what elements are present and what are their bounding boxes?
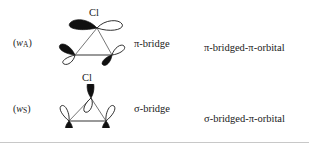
row-1-paren-close: ): [28, 37, 31, 48]
row-1-description-label: π-bridged-π-orbital: [204, 43, 285, 54]
row-1-orbital-symbol: (wA): [13, 38, 32, 49]
row-1-molecule-structure: [58, 18, 130, 66]
row-1-left-base-p-orbital: [59, 44, 75, 64]
row-2-bridge-label: σ-bridge: [134, 104, 170, 115]
row-1-triangle-bonds: [75, 28, 112, 55]
row-2-chlorine-label: Cl: [82, 73, 92, 84]
row-2-right-lobe-empty: [106, 105, 115, 121]
row-1-right-lobe-filled: [102, 55, 112, 65]
orbital-diagram-figure: (wA) Cl π-bridge π-bridged-π-orbital (wS…: [0, 0, 309, 143]
row-2-apex-lobe-empty: [84, 98, 92, 112]
row-1-apex-p-orbital: [69, 20, 122, 31]
row-2-molecule-structure: [58, 84, 130, 128]
row-2-paren-close: ): [27, 103, 30, 114]
row-2-apex-p-orbital: [84, 84, 94, 112]
row-2-right-lobe-filled: [102, 121, 110, 128]
row-2-w-symbol: w: [16, 103, 23, 114]
row-1-right-lobe-empty: [112, 45, 125, 55]
row-2-left-lobe-empty: [60, 105, 69, 121]
row-2-orbital-symbol: (wS): [13, 104, 31, 115]
row-2-apex-lobe-filled: [87, 84, 94, 98]
row-2-right-base-p-orbital: [102, 105, 115, 128]
row-1-left-lobe-empty: [63, 55, 75, 64]
row-2-left-base-p-orbital: [60, 105, 73, 128]
row-1-apex-lobe-filled: [69, 20, 97, 30]
row-1-bridge-label: π-bridge: [134, 39, 170, 50]
row-1-apex-lobe-empty: [97, 21, 122, 31]
row-2-left-lobe-filled: [65, 121, 73, 128]
row-1-left-lobe-filled: [59, 44, 75, 55]
row-2-description-label: σ-bridged-π-orbital: [204, 114, 285, 125]
row-1-chlorine-label: Cl: [89, 8, 99, 19]
row-1-w-symbol: w: [16, 37, 23, 48]
